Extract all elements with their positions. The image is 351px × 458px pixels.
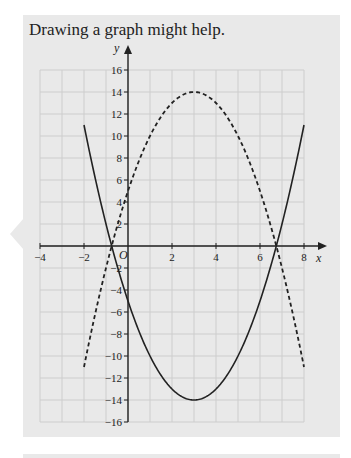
y-tick-label: −16 <box>105 416 123 428</box>
x-tick-label: −2 <box>78 251 90 263</box>
axes: xyO <box>40 41 327 422</box>
y-tick-label: 12 <box>111 108 122 120</box>
origin-label: O <box>119 248 128 262</box>
x-tick-label: −4 <box>34 251 46 263</box>
y-tick-label: −6 <box>110 306 122 318</box>
y-tick-label: 6 <box>117 174 123 186</box>
y-tick-label: −10 <box>105 350 123 362</box>
y-tick-label: 4 <box>117 196 123 208</box>
bottom-divider <box>23 454 340 458</box>
y-tick-label: −8 <box>110 328 122 340</box>
y-axis-label: y <box>113 41 120 55</box>
x-tick-label: 4 <box>213 251 219 263</box>
y-tick-label: 8 <box>117 152 123 164</box>
y-tick-label: −12 <box>105 372 122 384</box>
y-tick-label: −4 <box>110 284 122 296</box>
x-tick-label: 2 <box>169 251 175 263</box>
y-tick-label: −14 <box>105 394 123 406</box>
x-axis-arrow-icon <box>318 242 327 250</box>
x-axis-label: x <box>315 251 322 265</box>
graph: xyO −4−22468−16−14−12−10−8−6−4−224681012… <box>0 0 351 458</box>
x-tick-label: 8 <box>301 251 307 263</box>
y-tick-label: 10 <box>111 130 123 142</box>
y-tick-label: 14 <box>111 86 123 98</box>
x-tick-label: 6 <box>257 251 263 263</box>
y-axis-arrow-icon <box>124 45 132 54</box>
y-tick-label: 16 <box>111 64 123 76</box>
